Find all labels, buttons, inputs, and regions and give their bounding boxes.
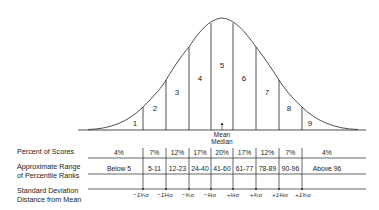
sd-label: +¼σ: [227, 191, 240, 198]
row-label-sd: Standard Deviation Distance from Mean: [17, 186, 81, 204]
percentile-cell: 90-96: [279, 165, 302, 172]
sd-label: −1¾σ: [133, 191, 149, 198]
stanine-6: 6: [242, 74, 246, 83]
stanine-3: 3: [175, 88, 179, 97]
sd-label: −¼σ: [204, 191, 217, 198]
row-label-percentile-line1: Approximate Range: [17, 162, 81, 171]
mean-median-label: Mean Median: [211, 131, 232, 145]
row-label-sd-line2: Distance from Mean: [17, 195, 81, 204]
sd-label: −¾σ: [182, 191, 195, 198]
row-label-percent: Percent of Scores: [17, 147, 74, 156]
percent-cell: 4%: [95, 149, 143, 156]
percentile-cell: 41-60: [211, 165, 233, 172]
median-label: Median: [211, 138, 232, 145]
percentile-cell: Above 96: [302, 165, 352, 172]
percentile-cell: 61-77: [233, 165, 256, 172]
mean-label: Mean: [211, 131, 232, 138]
percent-cell: 7%: [143, 149, 166, 156]
stanine-1: 1: [133, 119, 137, 128]
percentile-cell: Below 5: [95, 165, 143, 172]
percent-cell: 12%: [166, 149, 189, 156]
stanine-2: 2: [153, 104, 157, 113]
row-label-percentile: Approximate Range of Percentile Ranks: [17, 162, 81, 180]
stanine-dividers: [143, 23, 302, 130]
sd-label: +1¼σ: [272, 191, 288, 198]
percent-cell: 4%: [302, 149, 352, 156]
sd-label: −1¼σ: [157, 191, 173, 198]
stanine-8: 8: [287, 104, 291, 113]
sd-label: +¾σ: [250, 191, 263, 198]
percent-cell: 17%: [233, 149, 256, 156]
table-lines: [88, 158, 366, 189]
normal-curve: [88, 18, 358, 130]
row-label-sd-line1: Standard Deviation: [17, 186, 81, 195]
percentile-cell: 78-89: [256, 165, 279, 172]
percentile-cell: 5-11: [143, 165, 166, 172]
stanine-5: 5: [220, 61, 224, 70]
percent-cell: 7%: [279, 149, 302, 156]
stanine-4: 4: [198, 74, 202, 83]
stanine-9: 9: [308, 119, 312, 128]
percentile-cell: 12-23: [166, 165, 189, 172]
percent-cell: 12%: [256, 149, 279, 156]
percentile-cell: 24-40: [189, 165, 211, 172]
percent-cell: 17%: [189, 149, 211, 156]
stanine-7: 7: [265, 88, 269, 97]
row-label-percentile-line2: of Percentile Ranks: [17, 171, 81, 180]
sd-label: +1¾σ: [295, 191, 311, 198]
percent-cell: 20%: [211, 149, 233, 156]
